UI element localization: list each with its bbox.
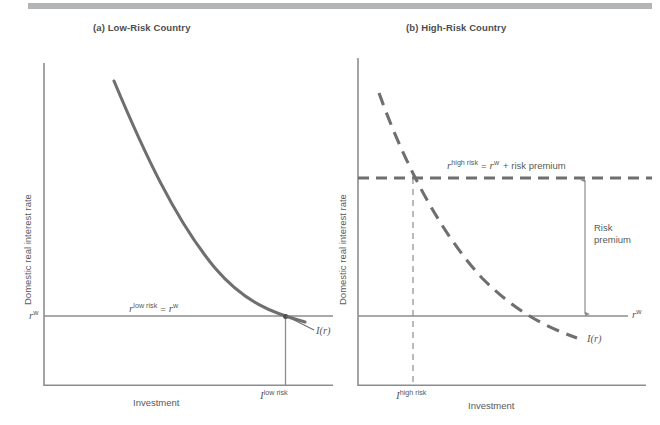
panel-b-axes [358, 58, 646, 386]
panel-b-investment-demand-curve [379, 93, 577, 338]
panel-a-investment-demand-curve [114, 81, 305, 322]
panel-a-curve-label-leader [286, 316, 314, 330]
plot-vector-layer [0, 0, 660, 425]
panel-a-axes [44, 63, 333, 386]
figure-container: (a) Low-Risk Country (b) High-Risk Count… [0, 0, 660, 425]
